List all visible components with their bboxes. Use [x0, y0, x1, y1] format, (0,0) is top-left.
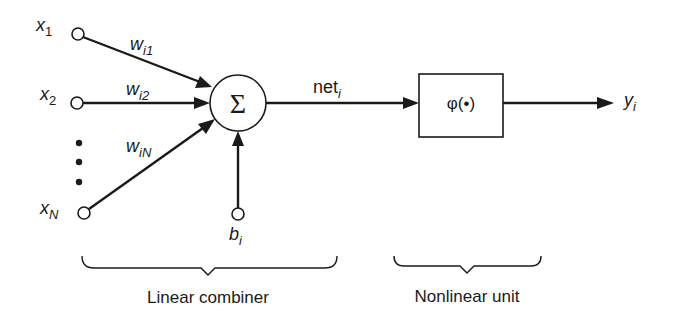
input-node-xN: [78, 207, 90, 219]
summation-symbol: Σ: [230, 88, 246, 119]
ellipsis-dot: [76, 140, 82, 146]
activation-function-label: φ(•): [447, 94, 475, 113]
brace-linear-combiner: [82, 256, 337, 275]
ellipsis-dot: [76, 179, 82, 185]
arrowhead-output: [597, 97, 614, 109]
input-node-x1: [72, 28, 84, 40]
group-label-nonlinear-unit: Nonlinear unit: [415, 287, 520, 306]
input-label-x1: x1: [35, 15, 52, 39]
arrowhead-bias: [232, 131, 244, 146]
group-label-linear-combiner: Linear combiner: [147, 288, 269, 307]
weight-label-wiN: wiN: [126, 136, 152, 160]
ellipsis-dot: [76, 159, 82, 165]
weight-label-wi1: wi1: [130, 34, 153, 58]
output-label: yi: [622, 90, 637, 114]
arrowhead-xN: [198, 119, 215, 134]
weight-label-wi2: wi2: [126, 79, 150, 103]
arrowhead-net: [403, 97, 419, 109]
neuron-diagram: Σ φ(•) x1 x2 xN wi1 wi2 wiN bi neti yi L…: [0, 0, 673, 318]
input-label-xN: xN: [39, 198, 59, 222]
net-label: neti: [313, 77, 342, 101]
bias-label: bi: [229, 224, 243, 248]
arrowhead-x1: [195, 76, 212, 88]
brace-nonlinear-unit: [394, 256, 541, 273]
bias-node: [232, 208, 244, 220]
input-label-x2: x2: [39, 84, 56, 108]
edge-xN-to-sum: [89, 128, 203, 209]
input-node-x2: [71, 97, 83, 109]
arrowhead-x2: [194, 97, 210, 109]
